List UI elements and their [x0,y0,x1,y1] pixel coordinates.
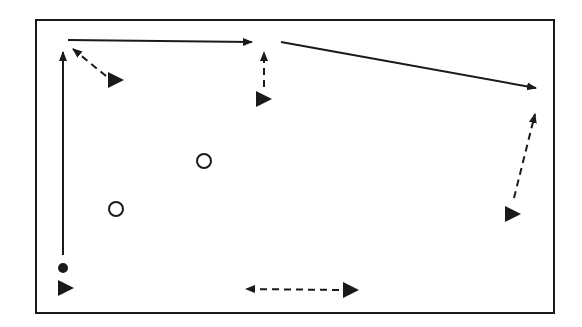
field-border [36,20,554,313]
players [58,72,521,298]
player-icon [343,282,359,298]
player-icon [505,206,521,222]
run-arrow [68,40,252,42]
pass-arrow [73,49,106,76]
run-lines [63,40,536,255]
player-icon [108,72,124,88]
player-icon [256,91,272,107]
cones [109,154,211,216]
cone-icon [109,202,123,216]
pass-arrow [514,114,535,198]
drill-diagram [0,0,582,327]
pass-arrow [246,289,339,290]
ball-icon [58,263,68,273]
cone-icon [197,154,211,168]
pass-lines [73,49,535,290]
player-icon [58,280,74,296]
run-arrow [281,42,536,88]
